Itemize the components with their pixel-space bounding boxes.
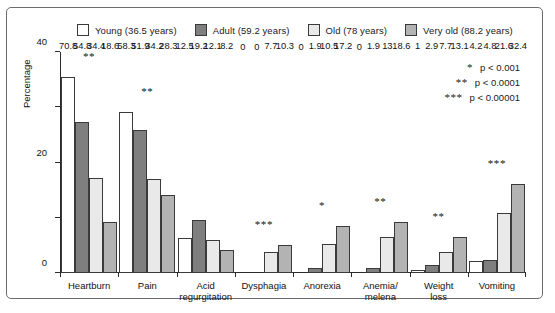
x-axis-label: Dysphagia <box>235 280 293 291</box>
bar-column[interactable]: 0 <box>250 52 264 273</box>
x-axis-label: Anemia/melena <box>351 280 409 302</box>
significance-marker: ** <box>83 50 95 62</box>
bar-column[interactable]: 28.3 <box>161 52 175 273</box>
x-tick <box>410 273 411 277</box>
legend-label: Adult (59.2 years) <box>213 25 290 36</box>
bar-value-label: 18.6 <box>392 41 410 51</box>
bar-groups: 70.854.834.418.6**Heartburn58.351.934.22… <box>60 52 526 273</box>
bar-column[interactable]: 8.2 <box>220 52 234 273</box>
bar[interactable] <box>147 179 161 273</box>
legend-item: Old (78 years) <box>308 24 388 36</box>
bar-column[interactable]: 7.7 <box>439 52 453 273</box>
significance-marker: ** <box>433 210 445 222</box>
bar-column[interactable]: 0 <box>352 52 366 273</box>
legend-label: Old (78 years) <box>326 25 388 36</box>
bar-column[interactable]: 0 <box>294 52 308 273</box>
bar-group: 01.910.517.2*Anorexia <box>293 52 351 273</box>
x-axis-label: Pain <box>118 280 176 291</box>
bar-set: 01.91318.6 <box>351 52 409 273</box>
bar-column[interactable]: 18.6 <box>103 52 117 273</box>
bar-set: 12.97.713.1 <box>410 52 468 273</box>
bar[interactable] <box>425 265 439 273</box>
bar-column[interactable]: 10.5 <box>322 52 336 273</box>
bar[interactable] <box>308 268 322 273</box>
x-tick <box>351 273 352 277</box>
bar-column[interactable]: 32.4 <box>511 52 525 273</box>
legend-swatch <box>308 24 320 36</box>
legend-swatch <box>405 24 417 36</box>
x-tick <box>468 273 469 277</box>
bar[interactable] <box>322 244 336 273</box>
bar[interactable] <box>453 237 467 273</box>
bar-column[interactable]: 13.1 <box>453 52 467 273</box>
bar-column[interactable]: 19.2 <box>192 52 206 273</box>
significance-marker: * <box>319 199 325 211</box>
bar-column[interactable]: 17.2 <box>336 52 350 273</box>
bar-column[interactable]: 54.8 <box>75 52 89 273</box>
y-axis-label: Percentage <box>21 59 32 108</box>
bar[interactable] <box>89 178 103 273</box>
bar-column[interactable]: 34.4 <box>89 52 103 273</box>
bar[interactable] <box>411 270 425 273</box>
bar-column[interactable]: 70.8 <box>61 52 75 273</box>
bar[interactable] <box>511 184 525 274</box>
bar[interactable] <box>394 222 408 273</box>
bar[interactable] <box>264 252 278 273</box>
bar-column[interactable]: 1 <box>411 52 425 273</box>
bar[interactable] <box>192 220 206 273</box>
bar[interactable] <box>469 261 483 273</box>
legend-item: Young (36.5 years) <box>77 24 177 36</box>
bar-value-label: 12.1 <box>204 41 222 51</box>
bar[interactable] <box>178 238 192 273</box>
bar[interactable] <box>75 122 89 273</box>
bar-column[interactable]: 13 <box>380 52 394 273</box>
bar-column[interactable]: 1.9 <box>366 52 380 273</box>
bar[interactable] <box>366 268 380 273</box>
bar[interactable] <box>380 237 394 273</box>
bar[interactable] <box>133 130 147 273</box>
bar[interactable] <box>206 240 220 273</box>
bar-group: 12.97.713.1**Weightloss <box>410 52 468 273</box>
bar-column[interactable]: 12.5 <box>178 52 192 273</box>
y-tick-label: 0 <box>42 257 47 268</box>
plot-area: 020406080 70.854.834.418.6**Heartburn58.… <box>60 52 526 273</box>
bar-value-label: 0 <box>357 42 362 52</box>
bar-column[interactable]: 7.7 <box>264 52 278 273</box>
bar[interactable] <box>439 252 453 273</box>
chart-screenshot: Young (36.5 years)Adult (59.2 years)Old … <box>0 0 555 313</box>
bar-group: 70.854.834.418.6**Heartburn <box>60 52 118 273</box>
legend-label: Very old (88.2 years) <box>423 25 513 36</box>
bar[interactable] <box>278 245 292 273</box>
x-tick <box>525 273 526 277</box>
bar-column[interactable]: 10.3 <box>278 52 292 273</box>
bar-column[interactable]: 12.1 <box>206 52 220 273</box>
bar[interactable] <box>336 226 350 274</box>
bar[interactable] <box>61 77 75 273</box>
bar[interactable] <box>483 260 497 273</box>
bar-set: 007.710.3 <box>235 52 293 273</box>
bar-column[interactable]: 58.3 <box>119 52 133 273</box>
x-axis-label: Vomiting <box>468 280 526 291</box>
bar-value-label: 0 <box>254 42 259 52</box>
bar[interactable] <box>497 213 511 273</box>
bar[interactable] <box>161 195 175 273</box>
bar-value-label: 1.9 <box>367 41 380 51</box>
bar[interactable] <box>103 222 117 273</box>
bar[interactable] <box>119 112 133 273</box>
bar-set: 12.519.212.18.2 <box>177 52 235 273</box>
bar-value-label: 32.4 <box>509 41 527 51</box>
bar-column[interactable]: 18.6 <box>394 52 408 273</box>
significance-marker: ** <box>141 85 153 97</box>
bar-value-label: 8.2 <box>220 41 233 51</box>
bar-column[interactable]: 2.9 <box>425 52 439 273</box>
bar-column[interactable]: 0 <box>236 52 250 273</box>
y-tick-label: 40 <box>36 36 47 47</box>
bar-value-label: 0 <box>299 42 304 52</box>
legend-swatch <box>195 24 207 36</box>
bar-value-label: 13 <box>382 41 392 51</box>
bar[interactable] <box>220 250 234 273</box>
bar-column[interactable]: 1.9 <box>308 52 322 273</box>
bar-column[interactable]: 4.2 <box>469 52 483 273</box>
bar-value-label: 2.9 <box>425 41 438 51</box>
x-axis-label: Acidregurgitation <box>177 280 235 302</box>
